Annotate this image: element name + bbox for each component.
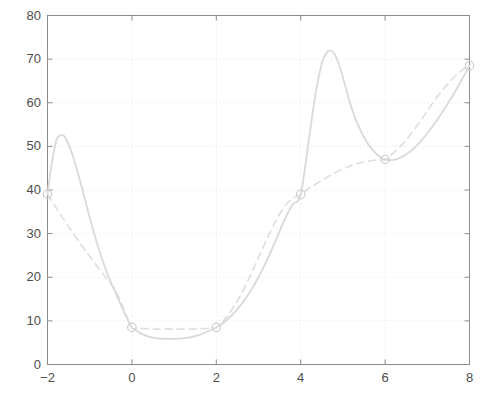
y-tick-label: 60 xyxy=(8,96,41,109)
y-tick-label: 10 xyxy=(8,314,41,327)
x-axis-tick-marks xyxy=(48,16,470,365)
data-point-markers xyxy=(43,61,473,331)
plot-border xyxy=(48,16,470,365)
x-tick-label: 4 xyxy=(276,371,326,384)
y-tick-label: 70 xyxy=(8,52,41,65)
chart-plot xyxy=(0,0,500,411)
series-line-shape-preserving xyxy=(48,66,470,330)
grid-lines xyxy=(48,16,470,365)
y-axis-tick-marks xyxy=(48,16,470,365)
x-tick-label: 2 xyxy=(191,371,241,384)
figure-canvas: 01020304050607080 −202468 xyxy=(0,0,500,411)
x-tick-label: 6 xyxy=(360,371,410,384)
axis-box xyxy=(48,16,470,365)
data-series-group xyxy=(48,50,470,338)
x-tick-label: 0 xyxy=(107,371,157,384)
y-tick-label: 80 xyxy=(8,9,41,22)
y-tick-label: 40 xyxy=(8,183,41,196)
y-tick-label: 30 xyxy=(8,227,41,240)
series-line-spline xyxy=(48,50,470,338)
y-tick-label: 0 xyxy=(8,358,41,371)
vertical-grid-lines xyxy=(132,16,385,365)
y-tick-label: 50 xyxy=(8,139,41,152)
x-tick-label: 8 xyxy=(445,371,495,384)
y-tick-label: 20 xyxy=(8,270,41,283)
x-tick-label: −2 xyxy=(23,371,73,384)
